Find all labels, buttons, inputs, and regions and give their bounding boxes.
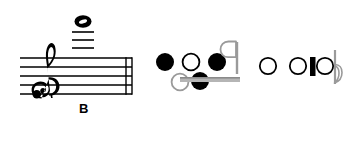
- thick-vertical-bar: [310, 57, 316, 76]
- hollow-notehead: [183, 54, 200, 71]
- whole-note: [75, 15, 92, 27]
- hollow-notehead: [260, 58, 276, 74]
- hollow-notehead: [317, 58, 333, 74]
- ledger-lines: [72, 32, 94, 48]
- beam-bar-edge: [180, 77, 240, 79]
- eighth-note-flag-stem: [335, 50, 343, 84]
- middle-symbol-cluster: [152, 36, 244, 94]
- staff-lines: [20, 58, 132, 94]
- notation-canvas: B: [0, 0, 348, 157]
- filled-notehead: [156, 53, 174, 71]
- clef-dot: [33, 90, 42, 99]
- pitch-label: B: [14, 102, 154, 115]
- staff-figure: B: [14, 6, 154, 126]
- right-symbol-cluster: [258, 50, 342, 92]
- treble-clef-icon: [32, 43, 60, 99]
- hollow-notehead: [290, 58, 306, 74]
